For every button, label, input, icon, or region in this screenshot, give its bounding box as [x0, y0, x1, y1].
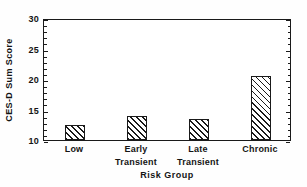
bar: [65, 125, 85, 140]
x-tick-label-line2: Transient: [177, 156, 219, 169]
y-tick-label: 15: [17, 106, 39, 116]
y-tick-label: 10: [17, 136, 39, 146]
chart-figure: CES-D Sum Score 1015202530 LowEarlyTrans…: [0, 0, 307, 187]
x-tick-label: LateTransient: [177, 143, 219, 169]
y-tick-label: 25: [17, 45, 39, 55]
x-tick-label: Chronic: [242, 143, 277, 156]
bar: [251, 76, 271, 140]
x-tick-label-line1: Low: [65, 144, 84, 154]
x-axis-tick-labels: LowEarlyTransientLateTransientChronic: [43, 143, 291, 173]
y-tick-label: 20: [17, 75, 39, 85]
x-tick-label-line1: Early: [124, 144, 147, 154]
y-axis-tick-labels: 1015202530: [0, 0, 43, 187]
bar: [189, 119, 209, 140]
bar-series: [44, 20, 290, 140]
x-tick-label: EarlyTransient: [115, 143, 157, 169]
y-tick-label: 30: [17, 14, 39, 24]
x-tick-label: Low: [65, 143, 84, 156]
plot-area: [43, 19, 291, 141]
x-tick-label-line2: Transient: [115, 156, 157, 169]
x-tick-label-line1: Late: [188, 144, 207, 154]
x-tick-label-line1: Chronic: [242, 144, 277, 154]
x-axis-title: Risk Group: [43, 170, 291, 180]
bar: [127, 116, 147, 140]
